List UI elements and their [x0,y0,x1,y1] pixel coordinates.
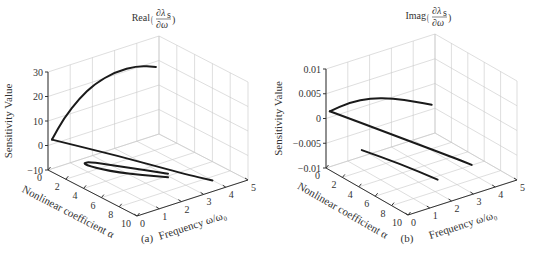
wall-gridline [159,134,248,180]
frequency-tick [514,178,517,180]
frequency-tick-label: 0 [411,217,416,228]
title-denominator: ∂ω [432,17,444,28]
wall-gridline [435,108,517,155]
wall-gridline [159,61,248,107]
frequency-tick-label: 5 [520,182,525,193]
alpha-tick-label: 0 [315,170,320,181]
alpha-tick-label: 8 [108,209,113,220]
floor-gridline [119,171,230,207]
panel-label: (b) [401,232,414,245]
title-prefix: Real [132,12,151,23]
frequency-tick-label: 1 [162,211,167,222]
wall-gridline [159,110,248,156]
panel-title: Real(∂λs∂ω) [132,7,176,30]
frequency-tick [427,206,430,208]
title-paren-right: ) [448,12,451,24]
frequency-axis-label: Frequency ω/ω₀ [157,208,228,241]
frequency-tick-label: 3 [476,196,481,207]
data-curve [330,98,432,111]
z-tick-label: 20 [33,91,43,102]
wall-gridline [48,85,159,121]
frequency-tick [449,199,452,201]
alpha-tick-label: 2 [55,181,60,192]
wall-gridline [159,85,248,131]
alpha-tick-label: 4 [348,189,353,200]
alpha-tick-label: 6 [364,198,369,209]
chart-canvas: −1001020300246810012345Sensitivity Value… [0,0,536,259]
panel-title: Imag(∂λs∂ω) [405,5,451,28]
panel-b-imag-sensitivity: −0.01−0.00500.0050.010246810012345Sensit… [272,5,525,245]
wall-gridline [435,84,517,131]
alpha-axis-label: Nonlinear coefficient α [20,183,116,241]
z-tick-label: 0 [316,113,321,124]
alpha-tick-label: 4 [73,190,78,201]
frequency-tick-label: 3 [207,196,212,207]
z-axis-label: Sensitivity Value [2,84,14,159]
alpha-tick-label: 2 [331,179,336,190]
wall-gridline [159,36,248,82]
alpha-tick-label: 6 [90,200,95,211]
wall-gridline [435,34,517,81]
wall-gridline [48,110,159,146]
frequency-tick [492,185,495,187]
title-paren-left: ( [151,15,153,26]
z-tick-label: 0.005 [299,88,322,99]
frequency-tick-label: 4 [498,189,503,200]
frequency-tick [470,192,473,194]
title-numerator: ∂λ [432,5,442,16]
frequency-tick-label: 1 [433,210,438,221]
title-denominator: ∂ω [156,19,168,30]
title-prefix: Imag [405,10,426,21]
frequency-tick-label: 2 [184,204,189,215]
title-numerator: ∂λ [156,7,166,18]
alpha-axis-label: Nonlinear coefficient α [296,179,391,240]
panel-a-real-sensitivity: −1001020300246810012345Sensitivity Value… [2,7,256,245]
alpha-tick-label: 8 [381,208,386,219]
wall-gridline [435,59,517,106]
figure: −1001020300246810012345Sensitivity Value… [0,0,536,259]
alpha-tick-label: 10 [392,217,402,228]
frequency-tick-label: 4 [229,189,234,200]
z-axis-label: Sensitivity Value [272,81,284,156]
alpha-tick-label: 0 [37,172,42,183]
frequency-tick-label: 0 [140,218,145,229]
z-tick-label: 0 [38,140,43,151]
floor-gridline [84,152,195,188]
title-paren-right: ) [172,14,175,26]
z-tick-label: 0.01 [304,64,322,75]
alpha-tick-label: 10 [121,218,131,229]
z-tick-label: 10 [33,116,43,127]
z-tick-label: 30 [33,67,43,78]
floor-gridline [66,143,177,179]
panel-label: (a) [141,232,154,245]
title-paren-left: ( [427,13,429,24]
z-tick-label: −0.005 [293,138,321,149]
floor-gridline [92,156,181,202]
frequency-tick-label: 5 [251,182,256,193]
frequency-tick-label: 2 [455,203,460,214]
